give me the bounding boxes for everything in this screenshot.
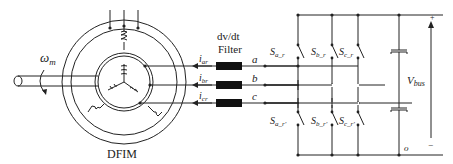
svg-text:Sc_r: Sc_r (339, 46, 354, 59)
svg-text:Sa_r: Sa_r (270, 46, 285, 59)
rotation-arrowhead-icon (42, 89, 47, 95)
svg-text:a: a (252, 53, 258, 65)
current-arrows: iar ibr icr (192, 53, 212, 106)
svg-text:b: b (252, 72, 258, 84)
node-o-label: o (404, 143, 409, 153)
dvdt-filter (216, 62, 242, 107)
shaft (14, 76, 98, 86)
rotation-arrow-icon (40, 70, 44, 92)
filter-label-2: Filter (218, 43, 242, 55)
svg-text:c: c (252, 90, 257, 102)
dc-link-capacitors (391, 15, 407, 155)
phase-labels: a b c (252, 53, 267, 105)
svg-text:icr: icr (199, 90, 208, 103)
svg-text:Sb_r': Sb_r' (311, 115, 328, 128)
svg-text:Sc_r': Sc_r' (339, 115, 355, 128)
svg-text:Sb_r: Sb_r (311, 46, 326, 59)
minus-sign: − (428, 140, 433, 150)
svg-text:ibr: ibr (199, 72, 208, 85)
bus-voltage-label: Vbus (407, 74, 425, 88)
rotor-windings (108, 64, 138, 92)
filter-label-1: dv/dt (217, 30, 240, 42)
plus-sign: + (430, 13, 435, 22)
dfim-converter-diagram: ωm DFIM iar ibr icr dv/dt Filter a b c (0, 0, 453, 164)
lower-switch-labels: Sa_r' Sb_r' Sc_r' (270, 115, 355, 128)
upper-switch-labels: Sa_r Sb_r Sc_r (270, 46, 354, 59)
svg-text:Sa_r': Sa_r' (270, 115, 287, 128)
speed-label: ωm (40, 50, 56, 67)
svg-text:iar: iar (199, 53, 208, 66)
machine-label: DFIM (107, 147, 137, 161)
arrowhead-icon (428, 21, 434, 28)
